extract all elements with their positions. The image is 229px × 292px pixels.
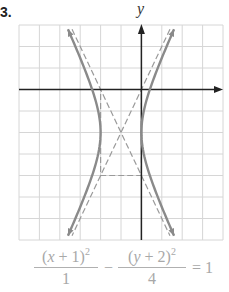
denominator-x: 1 <box>34 270 98 288</box>
numerator-y: (y + 2)2 <box>118 248 186 266</box>
fraction-y: (y + 2)2 4 <box>118 248 186 288</box>
fraction-x: (x + 1)2 1 <box>34 248 98 288</box>
equation: (x + 1)2 1 − (y + 2)2 4 = 1 <box>30 248 225 290</box>
hyperbola-figure: 3. y (x + 1)2 1 − (y + 2)2 4 = 1 <box>0 0 229 292</box>
minus-sign: − <box>104 259 113 277</box>
fraction-bar <box>118 267 186 268</box>
denominator-y: 4 <box>118 270 186 288</box>
equals-one: = 1 <box>192 259 213 277</box>
x-axis-arrow-icon <box>214 86 223 93</box>
numerator-x: (x + 1)2 <box>34 248 98 266</box>
fraction-bar <box>34 267 98 268</box>
